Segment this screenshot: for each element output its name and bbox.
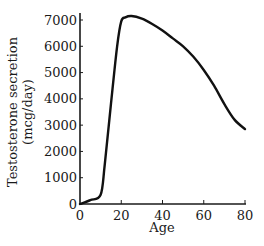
y-tick-label: 3000	[44, 118, 77, 133]
x-tick-label: 0	[76, 208, 84, 223]
y-axis-title-line: Testosterone secretion	[5, 36, 20, 187]
x-axis-title: Age	[148, 220, 175, 235]
x-tick-label: 20	[113, 208, 130, 223]
testosterone-curve	[80, 16, 245, 204]
y-axis-title-line: (mcg/day)	[20, 79, 35, 145]
y-tick-label: 6000	[44, 39, 77, 54]
testosterone-age-chart: Testosterone secretion(mcg/day) 01000200…	[0, 0, 264, 246]
x-tick-label: 60	[195, 208, 212, 223]
y-tick-label: 4000	[44, 91, 77, 106]
y-tick-label: 1000	[44, 170, 77, 185]
y-axis-title: Testosterone secretion(mcg/day)	[5, 36, 35, 187]
plot-area	[80, 16, 245, 204]
x-tick-label: 80	[237, 208, 254, 223]
y-tick-label: 7000	[44, 13, 77, 28]
y-tick-label: 5000	[44, 65, 77, 80]
y-axis: 01000200030004000500060007000	[44, 13, 83, 212]
y-tick-label: 2000	[44, 144, 77, 159]
